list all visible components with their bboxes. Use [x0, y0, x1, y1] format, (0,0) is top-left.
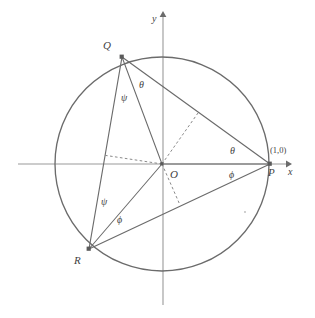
radius-OQ [122, 57, 162, 164]
perpendiculars-group [103, 113, 198, 205]
vertex-marker-O [160, 162, 163, 165]
vertex-marker-R [87, 247, 91, 251]
angle-label-phi-at-P: ϕ [229, 170, 234, 180]
diagram-canvas: Q R P O (1,0) x y θ ψ θ ϕ ψ ϕ [0, 0, 315, 318]
perpendicular-to-QR [103, 155, 162, 164]
perpendicular-to-QP [162, 113, 198, 164]
x-axis-label: x [288, 167, 292, 177]
stray-speck [244, 211, 246, 213]
angle-label-psi-at-Q: ψ [121, 93, 127, 103]
point-label-R: R [74, 255, 81, 266]
angle-label-theta-at-P: θ [230, 146, 235, 156]
radius-OR [89, 164, 162, 249]
point-label-P: P [268, 167, 275, 178]
y-axis-label: y [152, 14, 156, 24]
segment-QP [122, 57, 270, 164]
segment-RP [89, 164, 270, 249]
geometry-svg [0, 0, 315, 318]
point-label-Q: Q [103, 40, 111, 51]
coordinate-label-one-zero: (1,0) [270, 146, 286, 155]
axes-group [18, 11, 292, 305]
angle-label-psi-at-R: ψ [101, 197, 107, 207]
angle-label-theta-at-Q: θ [139, 80, 144, 90]
y-axis-arrowhead [160, 11, 167, 17]
point-label-O: O [170, 169, 178, 180]
vertex-marker-Q [120, 55, 124, 59]
vertex-markers-group [87, 55, 272, 251]
angle-label-phi-at-R: ϕ [117, 215, 122, 225]
